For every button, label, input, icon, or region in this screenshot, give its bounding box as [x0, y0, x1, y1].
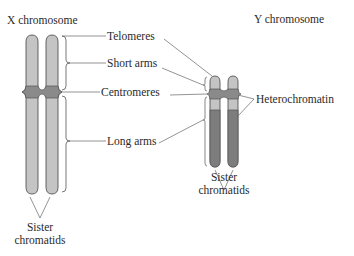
telomeres-leader-y — [164, 39, 212, 76]
heterochromatin-label: Heterochromatin — [256, 93, 334, 106]
y-heterochromatin-left — [210, 110, 220, 167]
y-chromosome — [159, 39, 254, 190]
long-arms-leader-y — [159, 120, 203, 143]
x-sister-chromatids-label: Sister chromatids — [8, 221, 72, 247]
y-centromere — [207, 89, 241, 99]
heterochromatin-leader-lower — [237, 99, 254, 117]
y-chromosome-title: Y chromosome — [254, 13, 324, 26]
x-chromatid-right — [42, 35, 62, 194]
centromeres-leader-y — [170, 94, 207, 95]
y-sister-line1: Sister — [192, 171, 256, 184]
x-long-arm-bracket — [62, 96, 70, 192]
x-chromosome — [22, 35, 106, 218]
short-arms-leader-y — [162, 68, 203, 85]
y-sister-line2: chromatids — [192, 184, 256, 197]
y-long-arm-bracket — [203, 97, 207, 166]
heterochromatin-leader-upper — [238, 95, 254, 99]
y-sister-chromatids-label: Sister chromatids — [192, 171, 256, 197]
x-sister-line2: chromatids — [8, 234, 72, 247]
x-centromere — [22, 86, 62, 98]
chromosome-diagram — [0, 0, 354, 256]
x-short-arm-bracket — [62, 36, 70, 90]
x-sister-leader — [30, 197, 50, 218]
x-chromosome-title: X chromosome — [7, 14, 78, 27]
telomeres-label: Telomeres — [107, 30, 155, 43]
y-short-arm-bracket — [203, 77, 207, 91]
centromeres-label: Centromeres — [101, 86, 160, 99]
x-sister-line1: Sister — [8, 221, 72, 234]
x-chromatid-left — [22, 35, 42, 194]
long-arms-label: Long arms — [107, 135, 157, 148]
y-heterochromatin-right — [228, 110, 238, 167]
short-arms-label: Short arms — [107, 57, 157, 70]
